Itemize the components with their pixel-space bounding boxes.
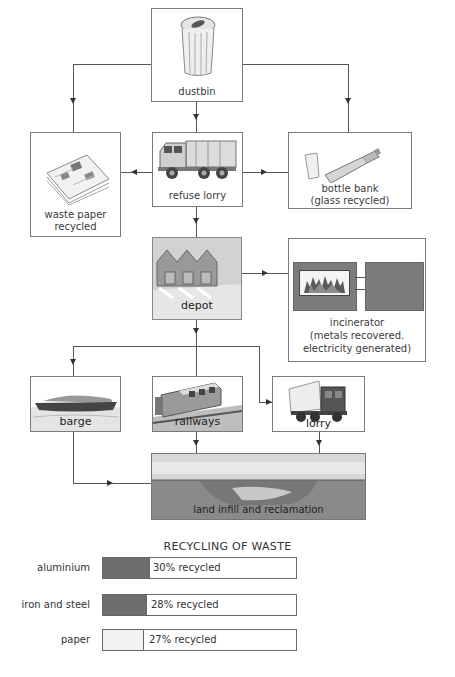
line-distribution [73,346,259,347]
depot-label: depot [153,300,241,312]
land-infill-label: land infill and reclamation [152,504,365,516]
arrow-down-icon [193,328,199,334]
line-dustbin-right [242,64,349,65]
bar-value-label: 28% recycled [151,599,219,610]
bar-category: paper [61,634,90,645]
line-to-lorry-vertical [259,346,260,402]
chart-title: RECYCLING OF WASTE [0,540,455,553]
node-barge: barge [30,376,121,432]
arrow-down-icon [70,359,76,365]
bar-category: aluminium [37,562,90,573]
waste-paper-label-1: waste paper [31,209,120,221]
node-depot: depot [152,237,242,320]
arrow-down-icon [193,218,199,224]
bar-track: 30% recycled [102,557,297,579]
arrow-left-icon [131,169,137,175]
generator-block [365,262,424,311]
bar-fill-aluminium [103,558,150,578]
node-dustbin: dustbin [151,8,243,102]
bar-track: 27% recycled [102,629,297,651]
pipe-1 [355,277,365,278]
bottle-bank-label-1: bottle bank [289,183,411,195]
node-incinerator: incinerator (metals recovered. electrici… [288,238,426,362]
node-railways: railways [152,376,243,432]
incinerator-furnace [293,262,357,311]
bar-fill-paper [103,630,144,650]
refuse-lorry-label: refuse lorry [153,190,242,202]
barge-label: barge [31,416,120,428]
bar-row-iron-steel: iron and steel 28% recycled [0,594,455,618]
node-lorry: lorry [272,376,365,432]
dustbin-label: dustbin [152,86,242,98]
bar-row-aluminium: aluminium 30% recycled [0,557,455,581]
bar-track: 28% recycled [102,594,297,616]
refuse-lorry-icon [156,137,240,181]
line-dustbin-left [73,64,152,65]
bar-row-paper: paper 27% recycled [0,629,455,653]
incinerator-label-1: incinerator [289,317,425,329]
flames-window [299,270,350,296]
arrow-down-icon [316,440,322,446]
node-land-infill: land infill and reclamation [151,453,366,520]
waste-paper-label-2: recycled [31,221,120,233]
arrow-right-icon [107,480,113,486]
flames-icon [302,273,347,293]
arrow-right-icon [261,169,267,175]
bar-category: iron and steel [21,599,90,610]
line-barge-down [73,432,74,483]
bar-value-label: 27% recycled [149,634,217,645]
arrow-down-icon [193,114,199,120]
node-refuse-lorry: refuse lorry [152,132,243,207]
bottles-icon [303,147,383,183]
lorry-label: lorry [273,418,364,430]
arrow-down-icon [345,98,351,104]
incinerator-label-2: (metals recovered. [289,330,425,342]
node-bottle-bank: bottle bank (glass recycled) [288,132,412,209]
pipe-2 [355,289,365,290]
newspaper-stack-icon [43,149,113,205]
arrow-right-icon [262,270,268,276]
bar-value-label: 30% recycled [153,562,221,573]
incinerator-label-3: electricity generated) [289,343,425,355]
bottle-bank-label-2: (glass recycled) [289,195,411,207]
arrow-down-icon [70,98,76,104]
bar-fill-iron-steel [103,595,147,615]
arrow-down-icon [193,440,199,446]
dustbin-icon [178,15,218,79]
node-waste-paper: waste paper recycled [30,132,121,237]
railways-label: railways [153,416,242,428]
